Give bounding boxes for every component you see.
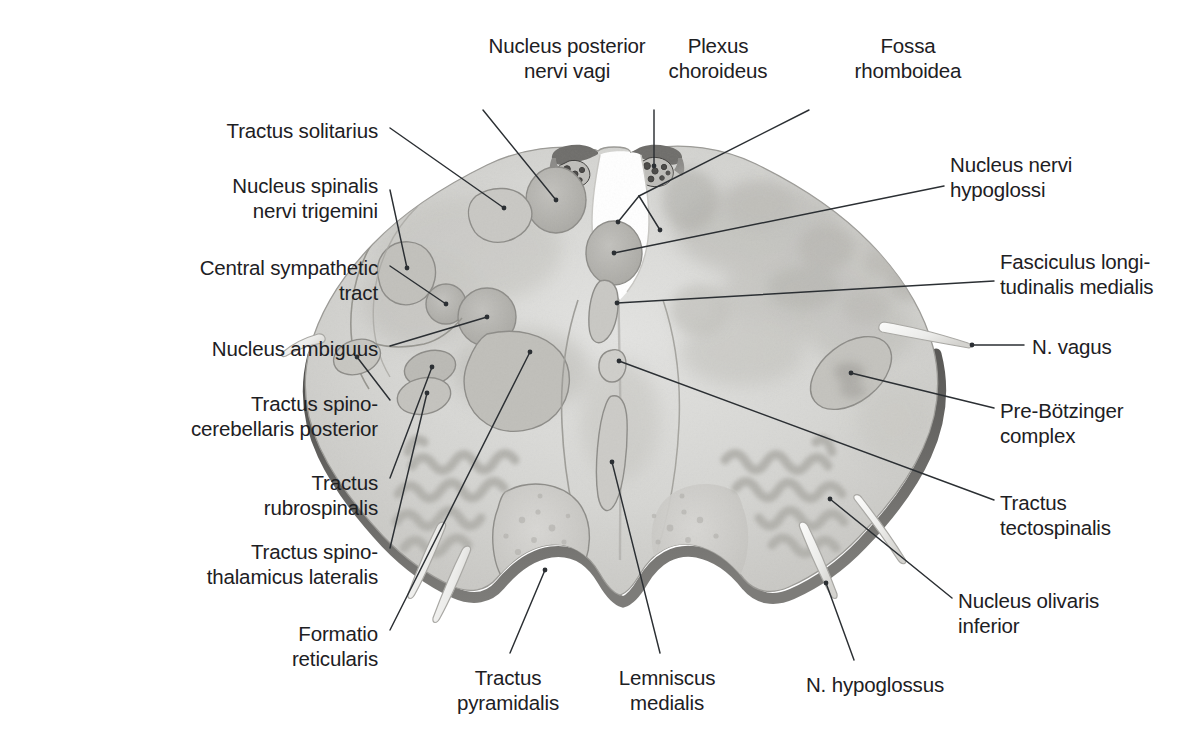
label-line: Nucleus olivaris bbox=[958, 588, 1193, 613]
label-nucleus-ambiguus: Nucleus ambiguus bbox=[38, 336, 378, 361]
leader-dot-tractus-rubrospinalis bbox=[430, 365, 435, 370]
label-line: Lemniscus bbox=[592, 665, 742, 690]
leader-n-hypoglossus bbox=[826, 583, 854, 660]
leader-dot-pre-botzinger-complex bbox=[849, 371, 854, 376]
leader-dot-fasciculus-longitudinalis-medialis bbox=[615, 301, 620, 306]
label-line: choroideus bbox=[653, 58, 783, 83]
figure-canvas: Nucleus posteriornervi vagiPlexuschoroid… bbox=[0, 0, 1193, 751]
paper-grain bbox=[305, 146, 938, 595]
label-fossa-rhomboidea: Fossarhomboidea bbox=[843, 33, 973, 83]
leader-dot-central-sympathetic-tract bbox=[444, 302, 449, 307]
label-nucleus-nervi-hypoglossi: Nucleus nervihypoglossi bbox=[950, 152, 1190, 202]
label-line: Tractus bbox=[38, 470, 378, 495]
leader-dot-fossa-rhomboidea bbox=[616, 220, 621, 225]
label-line: Tractus bbox=[428, 665, 588, 690]
label-line: complex bbox=[1000, 423, 1193, 448]
label-line: rubrospinalis bbox=[38, 495, 378, 520]
label-fasciculus-longitudinalis-medialis: Fasciculus longi-tudinalis medialis bbox=[1000, 249, 1193, 299]
label-line: reticularis bbox=[150, 646, 378, 671]
label-line: hypoglossi bbox=[950, 177, 1190, 202]
label-line: Nucleus spinalis bbox=[38, 173, 378, 198]
leader-dot-plexus-choroideus bbox=[652, 164, 657, 169]
label-line: N. hypoglossus bbox=[790, 672, 960, 697]
label-line: Tractus solitarius bbox=[38, 118, 378, 143]
label-tractus-tectospinalis: Tractustectospinalis bbox=[1000, 490, 1193, 540]
leader-dot-lemniscus-medialis bbox=[610, 460, 615, 465]
label-line: pyramidalis bbox=[428, 690, 588, 715]
label-tractus-spinothalamicus-lateralis: Tractus spino-thalamicus lateralis bbox=[18, 539, 378, 589]
label-line: nervi vagi bbox=[477, 58, 657, 83]
leader-dot-formatio-reticularis bbox=[528, 350, 533, 355]
label-line: Nucleus nervi bbox=[950, 152, 1190, 177]
label-line: Fossa bbox=[843, 33, 973, 58]
internal-architecture bbox=[305, 146, 938, 597]
leader-dot-nucleus-nervi-hypoglossi bbox=[612, 251, 617, 256]
label-line: thalamicus lateralis bbox=[18, 564, 378, 589]
label-line: tudinalis medialis bbox=[1000, 274, 1193, 299]
medulla-section-body bbox=[282, 145, 972, 623]
leader-dot-nucleus-ambiguus bbox=[485, 315, 490, 320]
leader-dot-n-hypoglossus bbox=[824, 581, 829, 586]
leader-dot-tractus-tectospinalis bbox=[617, 359, 622, 364]
leader-dot-tractus-solitarius bbox=[502, 206, 507, 211]
label-nucleus-olivaris-inferior: Nucleus olivarisinferior bbox=[958, 588, 1193, 638]
label-line: tract bbox=[18, 280, 378, 305]
label-line: rhomboidea bbox=[843, 58, 973, 83]
label-tractus-rubrospinalis: Tractusrubrospinalis bbox=[38, 470, 378, 520]
label-tractus-spinocerebellaris-posterior: Tractus spino-cerebellaris posterior bbox=[18, 391, 378, 441]
leader-dot-nucleus-olivaris-inferior bbox=[828, 497, 833, 502]
label-tractus-solitarius: Tractus solitarius bbox=[38, 118, 378, 143]
label-line: Nucleus ambiguus bbox=[38, 336, 378, 361]
leader-tractus-pyramidalis bbox=[510, 570, 545, 653]
label-central-sympathetic-tract: Central sympathetictract bbox=[18, 255, 378, 305]
label-nucleus-posterior-nervi-vagi: Nucleus posteriornervi vagi bbox=[477, 33, 657, 83]
label-pre-botzinger-complex: Pre-Bötzingercomplex bbox=[1000, 398, 1193, 448]
leader-dot-nucleus-spinalis-nervi-trigemini bbox=[405, 266, 410, 271]
label-line: Tractus spino- bbox=[18, 391, 378, 416]
leader-dot-nucleus-posterior-nervi-vagi bbox=[554, 198, 559, 203]
label-line: Nucleus posterior bbox=[477, 33, 657, 58]
label-line: N. vagus bbox=[1032, 334, 1192, 359]
label-line: nervi trigemini bbox=[38, 198, 378, 223]
label-formatio-reticularis: Formatioreticularis bbox=[150, 621, 378, 671]
label-nucleus-spinalis-nervi-trigemini: Nucleus spinalisnervi trigemini bbox=[38, 173, 378, 223]
leader-dot-tractus-spinothalamicus-lateralis bbox=[425, 391, 430, 396]
label-line: Pre-Bötzinger bbox=[1000, 398, 1193, 423]
leader-dot-fossa-rhomboidea bbox=[658, 228, 663, 233]
label-lemniscus-medialis: Lemniscusmedialis bbox=[592, 665, 742, 715]
label-line: Fasciculus longi- bbox=[1000, 249, 1193, 274]
label-line: tectospinalis bbox=[1000, 515, 1193, 540]
label-n-vagus: N. vagus bbox=[1032, 334, 1192, 359]
label-line: Central sympathetic bbox=[18, 255, 378, 280]
label-line: Tractus bbox=[1000, 490, 1193, 515]
leader-dot-tractus-pyramidalis bbox=[543, 568, 548, 573]
label-line: cerebellaris posterior bbox=[18, 416, 378, 441]
label-line: Formatio bbox=[150, 621, 378, 646]
label-plexus-choroideus: Plexuschoroideus bbox=[653, 33, 783, 83]
leader-dot-n-vagus bbox=[970, 343, 975, 348]
label-line: medialis bbox=[592, 690, 742, 715]
label-line: Tractus spino- bbox=[18, 539, 378, 564]
label-line: Plexus bbox=[653, 33, 783, 58]
label-n-hypoglossus: N. hypoglossus bbox=[790, 672, 960, 697]
label-tractus-pyramidalis: Tractuspyramidalis bbox=[428, 665, 588, 715]
label-line: inferior bbox=[958, 613, 1193, 638]
